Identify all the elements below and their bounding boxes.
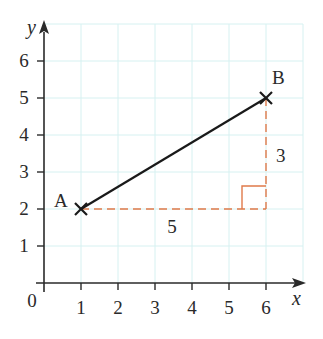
vertical-leg-length-label: 3: [276, 145, 286, 166]
coordinate-diagram: 1 2 3 4 5 6 x 1 2 3 4 5 6 y 0 5 3: [0, 0, 323, 339]
y-axis-name: y: [25, 16, 36, 39]
x-tick-label: 6: [261, 297, 271, 318]
segment-ab: [81, 98, 266, 209]
x-tick-label: 1: [76, 297, 86, 318]
x-tick-label: 3: [150, 297, 160, 318]
y-tick-label: 3: [19, 161, 29, 182]
y-tick-label: 2: [19, 198, 29, 219]
origin-label: 0: [27, 290, 37, 311]
horizontal-leg-length-label: 5: [167, 216, 177, 237]
x-axis: 1 2 3 4 5 6 x: [36, 278, 306, 318]
y-tick-label: 1: [19, 235, 29, 256]
x-tick-label: 4: [187, 297, 197, 318]
y-axis: 1 2 3 4 5 6 y: [19, 16, 49, 292]
x-axis-name: x: [291, 287, 301, 309]
y-tick-label: 4: [19, 124, 29, 145]
y-tick-label: 5: [19, 87, 29, 108]
x-tick-label: 5: [224, 297, 234, 318]
right-angle-marker: [242, 186, 266, 209]
y-axis-arrow-icon: [39, 20, 49, 34]
point-a-label: A: [54, 190, 68, 211]
point-b-label: B: [272, 67, 285, 88]
x-tick-label: 2: [113, 297, 123, 318]
y-tick-label: 6: [19, 50, 29, 71]
